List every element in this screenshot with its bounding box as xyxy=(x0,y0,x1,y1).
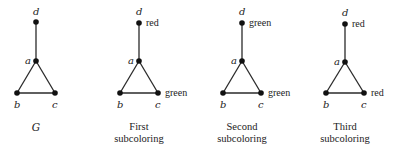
panel-third-subcoloring: d a b c red red Third subcoloring xyxy=(320,7,384,144)
panel-graph-g: d a b c G xyxy=(14,6,58,133)
vertex-a xyxy=(33,58,39,64)
vertex-label-c: c xyxy=(52,99,58,110)
vertex-a xyxy=(239,58,245,64)
vertex-label-b: b xyxy=(323,99,329,110)
vertex-a xyxy=(342,59,348,65)
caption-line-1: Second xyxy=(227,121,259,132)
color-label-d: red xyxy=(146,17,159,28)
vertex-c xyxy=(52,90,58,96)
edge-a-c xyxy=(345,62,364,93)
vertex-c xyxy=(258,90,264,96)
caption-line-1: G xyxy=(32,121,40,133)
vertex-label-c: c xyxy=(258,99,264,110)
vertex-c xyxy=(361,90,367,96)
panel-second-subcoloring: d a b c green green Second subcoloring xyxy=(217,6,290,144)
vertex-label-d: d xyxy=(342,7,348,18)
caption-line-1: First xyxy=(129,121,148,132)
caption-line-2: subcoloring xyxy=(217,133,267,144)
vertex-d xyxy=(239,20,245,26)
vertex-label-a: a xyxy=(231,55,237,66)
vertex-label-d: d xyxy=(239,6,245,17)
color-label-c: green xyxy=(165,87,187,98)
vertex-label-d: d xyxy=(33,6,39,17)
color-label-c: red xyxy=(371,87,384,98)
panel-first-subcoloring: d a b c red green First subcoloring xyxy=(114,6,187,144)
caption-line-2: subcoloring xyxy=(114,133,164,144)
edge-a-c xyxy=(36,61,55,93)
vertex-label-b: b xyxy=(14,99,20,110)
vertex-label-d: d xyxy=(136,6,142,17)
vertex-label-b: b xyxy=(117,99,123,110)
vertex-b xyxy=(220,90,226,96)
vertex-label-b: b xyxy=(220,99,226,110)
vertex-a xyxy=(136,58,142,64)
edge-a-c xyxy=(139,61,158,93)
caption-line-1: Third xyxy=(333,121,357,132)
vertex-label-a: a xyxy=(334,56,340,67)
color-label-c: green xyxy=(268,87,290,98)
vertex-b xyxy=(117,90,123,96)
subcoloring-diagram: d a b c G d a b c red green First subcol… xyxy=(0,0,399,152)
vertex-label-a: a xyxy=(128,55,134,66)
caption-line-2: subcoloring xyxy=(320,133,370,144)
vertex-b xyxy=(14,90,20,96)
vertex-c xyxy=(155,90,161,96)
color-label-d: green xyxy=(249,17,271,28)
color-label-d: red xyxy=(352,18,365,29)
vertex-d xyxy=(33,19,39,25)
vertex-b xyxy=(323,90,329,96)
vertex-label-c: c xyxy=(361,99,367,110)
vertex-d xyxy=(136,20,142,26)
vertex-label-a: a xyxy=(25,55,31,66)
edge-a-c xyxy=(242,61,261,93)
vertex-d xyxy=(342,21,348,27)
vertex-label-c: c xyxy=(155,99,161,110)
